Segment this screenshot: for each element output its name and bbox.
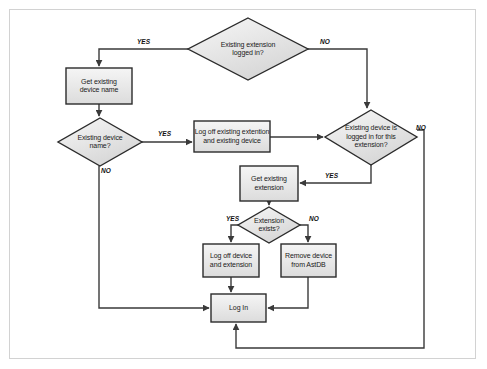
node-get-existing-device-name	[66, 68, 132, 104]
node-log-in	[211, 294, 266, 322]
flowchart-page: Existing extension logged in? Get existi…	[0, 0, 487, 369]
node-log-off-existing-extention	[194, 121, 270, 152]
edge-yes-to-get-device-name	[99, 49, 188, 66]
edge-yes-to-log-off-device	[231, 225, 238, 242]
node-existing-device-logged-in-for-extension	[325, 110, 417, 165]
node-get-existing-extension	[240, 166, 298, 201]
edge-label-no-existing-extension: NO	[320, 38, 330, 45]
node-extension-exists	[238, 207, 300, 243]
edge-label-no-existing-device-name: NO	[101, 167, 111, 174]
node-remove-device-from-astdb	[281, 244, 336, 277]
edge-label-yes-extension-exists: YES	[226, 215, 239, 222]
edge-no-to-device-logged-in	[308, 49, 367, 108]
edge-label-yes-existing-extension: YES	[137, 38, 150, 45]
edge-no-device-name-to-login	[99, 166, 209, 308]
node-log-off-device-and-extension	[203, 244, 259, 277]
node-existing-extension-logged-in	[188, 18, 308, 80]
flowchart-canvas	[0, 0, 487, 369]
edge-no-to-remove-device	[300, 225, 308, 242]
edge-label-no-existing-device-logged-in: NO	[416, 124, 426, 131]
edge-label-yes-existing-device-logged-in: YES	[325, 172, 338, 179]
edge-label-no-extension-exists: NO	[309, 215, 319, 222]
edge-label-yes-existing-device-name: YES	[158, 130, 171, 137]
node-existing-device-name	[58, 118, 142, 166]
edge-remove-device-to-login	[268, 277, 308, 308]
